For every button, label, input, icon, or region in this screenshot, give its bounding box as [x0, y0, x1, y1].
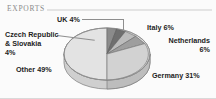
leader-line-uk	[82, 19, 124, 20]
slice-label-germany: Germany 31%	[152, 71, 200, 80]
slice-label-uk: UK 4%	[57, 15, 80, 24]
pie-chart	[62, 22, 152, 94]
chart-header: EXPORTS	[0, 0, 216, 16]
slice-label-other: Other 49%	[16, 65, 52, 74]
slice-label-italy: Italy 6%	[147, 23, 174, 32]
exports-pie-chart-figure: EXPORTS UK	[0, 0, 216, 99]
leader-line-uk-drop	[123, 19, 124, 30]
page-title: EXPORTS	[7, 4, 45, 13]
header-divider	[47, 9, 212, 11]
slice-label-netherlands: Netherlands 6%	[152, 36, 210, 54]
slice-label-czech-slovakia: Czech Republic & Slovakia 4%	[5, 30, 59, 57]
pie-chart-svg	[62, 22, 152, 94]
